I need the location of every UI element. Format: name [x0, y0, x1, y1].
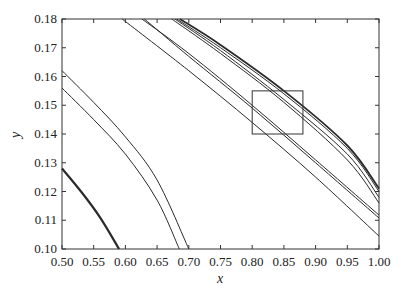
curve-9-line: [177, 19, 379, 192]
curve-10-line: [180, 19, 379, 189]
curve-8-line: [175, 19, 379, 197]
curve-3-line: [62, 71, 189, 249]
y-tick-label: 0.15: [34, 97, 57, 112]
curves: [62, 19, 379, 249]
x-tick-label: 0.75: [209, 254, 232, 269]
x-tick-label: 0.80: [241, 254, 264, 269]
x-axis-ticks: 0.500.550.600.650.700.750.800.850.900.95…: [51, 19, 391, 269]
x-tick-label: 0.65: [146, 254, 169, 269]
y-tick-label: 0.13: [34, 155, 57, 170]
x-tick-label: 1.00: [368, 254, 391, 269]
x-tick-label: 0.50: [51, 254, 74, 269]
x-tick-label: 0.60: [114, 254, 137, 269]
curve-1-line: [62, 169, 119, 250]
y-tick-label: 0.17: [34, 40, 57, 55]
curve-6-line: [144, 19, 379, 218]
curve-7-line: [172, 19, 379, 203]
curve-2-line: [62, 88, 179, 249]
curve-5-line: [142, 19, 379, 215]
y-tick-label: 0.11: [35, 212, 57, 227]
y-tick-label: 0.12: [34, 184, 57, 199]
x-tick-label: 0.70: [177, 254, 200, 269]
x-tick-label: 0.85: [273, 254, 296, 269]
chart: 0.500.550.600.650.700.750.800.850.900.95…: [0, 0, 404, 300]
x-tick-label: 0.95: [336, 254, 359, 269]
curve-4-line: [122, 19, 379, 236]
x-axis-label: x: [216, 271, 224, 286]
y-tick-label: 0.10: [34, 241, 57, 256]
y-tick-label: 0.16: [34, 69, 57, 84]
x-tick-label: 0.90: [304, 254, 327, 269]
y-axis-ticks: 0.100.110.120.130.140.150.160.170.18: [34, 11, 379, 256]
y-tick-label: 0.14: [34, 126, 57, 141]
y-tick-label: 0.18: [34, 11, 57, 26]
y-axis-label: y: [8, 131, 23, 140]
x-tick-label: 0.55: [82, 254, 105, 269]
